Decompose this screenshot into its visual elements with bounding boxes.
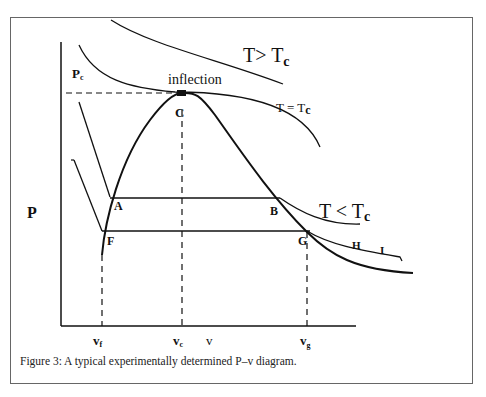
critical-point-marker	[177, 90, 186, 96]
p-axis-label: P	[27, 204, 37, 221]
saturation-dome	[102, 93, 413, 273]
vc-label: vc	[173, 333, 184, 349]
inflection-label: inflection	[168, 72, 222, 87]
figure-caption: Figure 3: A typical experimentally deter…	[20, 355, 297, 367]
point-h-label: H	[352, 239, 361, 251]
point-c-label: C	[175, 105, 184, 120]
vg-label: vg	[300, 333, 311, 350]
liquid-line-f	[74, 160, 102, 231]
t-below-tc-label: T < Tc	[319, 200, 370, 224]
v-axis-label: v	[206, 333, 213, 348]
point-b-label: B	[270, 204, 278, 218]
point-f-label: F	[107, 234, 114, 248]
point-a-label: A	[114, 199, 123, 213]
t-above-tc-label: T> Tc	[243, 44, 290, 69]
pc-label: Pc	[72, 66, 84, 82]
point-g-label: G	[298, 234, 307, 248]
vf-label: vf	[93, 333, 103, 349]
pv-diagram: Pc P inflection C A B F G H I T> Tc T = …	[0, 0, 486, 397]
point-i-label: I	[380, 244, 384, 256]
t-equal-tc-label: T = Tc	[276, 100, 311, 117]
